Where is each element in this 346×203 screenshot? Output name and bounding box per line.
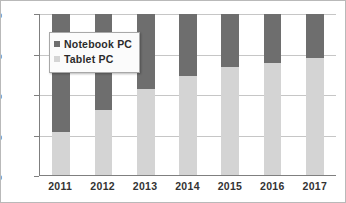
bar-slot xyxy=(294,14,336,175)
bar-segment-notebook-pc[interactable] xyxy=(306,14,324,58)
legend-item-tablet-pc: Tablet PC xyxy=(54,53,132,65)
legend-swatch-icon xyxy=(54,41,60,47)
x-axis-tick-label: 2016 xyxy=(260,180,285,192)
legend-item-label: Tablet PC xyxy=(64,53,113,65)
bar-slot xyxy=(167,14,209,175)
x-axis-tick-label: 2014 xyxy=(175,180,200,192)
x-axis-tick-label: 2017 xyxy=(303,180,328,192)
x-axis-tick-label: 2012 xyxy=(90,180,115,192)
y-axis-tick-label: 25% xyxy=(0,130,2,141)
bar-segment-notebook-pc[interactable] xyxy=(179,14,197,76)
legend-item-notebook-pc: Notebook PC xyxy=(54,38,132,50)
stacked-bar-chart: 0%25%50%75%100% 201120122013201420152016… xyxy=(0,0,346,203)
bar-slot xyxy=(209,14,251,175)
stacked-bar[interactable] xyxy=(221,14,239,175)
x-axis-tick-label: 2013 xyxy=(133,180,158,192)
bar-segment-tablet-pc[interactable] xyxy=(137,89,155,175)
bar-segment-notebook-pc[interactable] xyxy=(221,14,239,67)
chart-legend: Notebook PC Tablet PC xyxy=(49,32,140,73)
bar-segment-tablet-pc[interactable] xyxy=(52,132,70,175)
stacked-bar[interactable] xyxy=(179,14,197,175)
stacked-bar[interactable] xyxy=(306,14,324,175)
y-axis-tick-label: 50% xyxy=(0,90,2,101)
bar-segment-tablet-pc[interactable] xyxy=(221,67,239,175)
bar-segment-tablet-pc[interactable] xyxy=(95,110,113,175)
bar-segment-tablet-pc[interactable] xyxy=(306,58,324,175)
y-axis-tick-mark xyxy=(34,176,39,177)
legend-item-label: Notebook PC xyxy=(64,38,132,50)
bar-segment-notebook-pc[interactable] xyxy=(264,14,282,63)
bar-segment-tablet-pc[interactable] xyxy=(179,76,197,175)
stacked-bar[interactable] xyxy=(264,14,282,175)
x-axis-tick-label: 2011 xyxy=(48,180,72,192)
bar-segment-tablet-pc[interactable] xyxy=(264,63,282,175)
x-axis-tick-label: 2015 xyxy=(218,180,243,192)
y-axis-tick-label: 100% xyxy=(0,9,2,20)
bar-slot xyxy=(251,14,293,175)
gridline xyxy=(40,176,336,177)
y-axis-tick-label: 75% xyxy=(0,49,2,60)
legend-swatch-icon xyxy=(54,56,60,62)
y-axis-tick-label: 0% xyxy=(0,171,2,182)
